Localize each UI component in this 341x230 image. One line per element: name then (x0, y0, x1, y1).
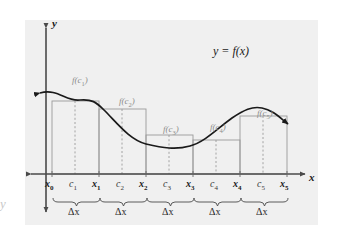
axis-tick-label-x5: x5 (280, 178, 289, 192)
height-label-f-c4: f(c4) (210, 122, 226, 134)
function-curve (40, 92, 288, 148)
axis-tick-label-x3: x3 (186, 178, 195, 192)
axis-tick-label-x0: x0 (45, 178, 54, 192)
axis-tick-label-x2: x2 (139, 178, 148, 192)
delta-x-label-4: Δx (209, 206, 220, 217)
delta-x-label-3: Δx (162, 206, 173, 217)
delta-x-label-5: Δx (256, 206, 267, 217)
axis-tick-label-c2: c2 (116, 178, 124, 192)
axis-tick-label-x4: x4 (233, 178, 242, 192)
figure-graphics (0, 0, 341, 230)
axis-tick-label-x1: x1 (92, 178, 101, 192)
delta-x-label-2: Δx (115, 206, 126, 217)
function-equation-label: y = f(x) (213, 44, 249, 59)
delta-x-braces (53, 198, 288, 206)
riemann-rectangles (52, 101, 287, 174)
height-label-f-c5: f(c5) (257, 108, 273, 120)
axis-tick-label-c4: c4 (210, 178, 218, 192)
height-label-f-c1: f(c1) (72, 75, 88, 87)
axis-tick-label-c1: c1 (69, 178, 77, 192)
height-label-f-c3: f(c3) (163, 124, 179, 136)
x-axis-label: x (309, 171, 315, 183)
figure-canvas: y x y = f(x) f(c1) f(c2) f(c3) f(c4) f(c… (0, 0, 341, 230)
delta-x-label-1: Δx (68, 206, 79, 217)
height-label-f-c2: f(c2) (119, 96, 135, 108)
midpoint-dashed-lines (75, 101, 263, 174)
axis-tick-label-c5: c5 (257, 178, 265, 192)
y-axis-label: y (52, 17, 57, 29)
edge-artifact-glyph: y (0, 196, 6, 212)
axis-tick-label-c3: c3 (163, 178, 171, 192)
